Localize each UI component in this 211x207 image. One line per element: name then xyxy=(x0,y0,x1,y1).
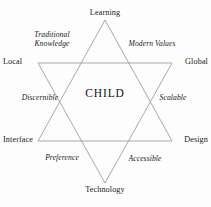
hexagram-diagram: Learning Global Design Technology Interf… xyxy=(0,0,211,207)
edge-label-scalable: Scalable xyxy=(160,94,187,102)
vertex-label-local: Local xyxy=(3,58,22,67)
edge-label-traditional-knowledge: Traditional Knowledge xyxy=(27,31,77,48)
edge-label-preference: Preference xyxy=(45,154,79,162)
vertex-label-interface: Interface xyxy=(3,136,33,145)
vertex-label-technology: Technology xyxy=(85,186,125,195)
edge-label-modern-values: Modern Values xyxy=(128,40,175,48)
vertex-label-global: Global xyxy=(185,58,208,67)
vertex-label-learning: Learning xyxy=(90,9,120,18)
vertex-label-design: Design xyxy=(184,136,208,145)
downward-triangle xyxy=(38,63,172,183)
edge-label-discernible: Discernible xyxy=(22,94,59,102)
edge-label-accessible: Accessible xyxy=(128,155,161,163)
center-label-child: CHILD xyxy=(85,87,125,99)
